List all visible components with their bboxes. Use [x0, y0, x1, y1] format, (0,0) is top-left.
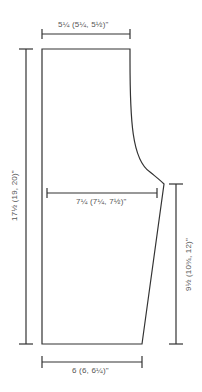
lower-length-label: 9½ (10¾, 12)"	[184, 235, 193, 295]
schematic-drawing	[0, 0, 202, 392]
mid-width-label: 7¼ (7¼, 7½)"	[76, 197, 127, 206]
bottom-width-label: 6 (6, 6¼)"	[72, 366, 109, 375]
top-width-label: 5¼ (5¼, 5½)"	[58, 20, 109, 29]
total-length-label: 17½ (19, 20)"	[10, 166, 19, 226]
